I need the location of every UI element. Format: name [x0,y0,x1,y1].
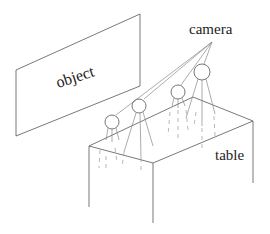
camera-4 [186,64,215,126]
camera-1 [105,115,119,142]
object-plane: object [16,14,140,136]
table: table [89,97,253,223]
object-label: object [54,62,97,91]
camera-2 [124,99,153,158]
camera-setup-diagram: object camera table [0,0,270,234]
table-label: table [215,147,244,163]
camera-label: camera [189,21,233,37]
camera-3 [171,85,185,108]
